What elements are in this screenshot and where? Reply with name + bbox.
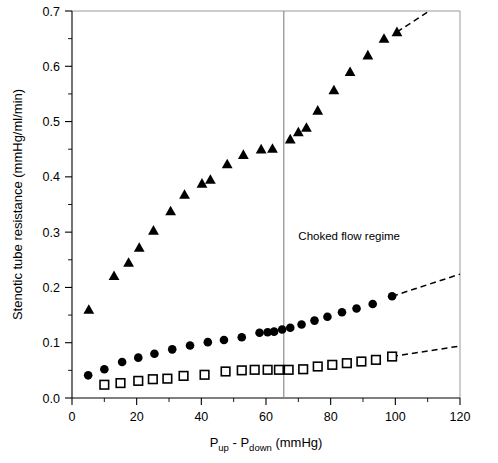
data-markers <box>83 27 402 389</box>
x-tick-label: 40 <box>194 410 208 424</box>
data-point-circle <box>237 333 246 342</box>
data-point-square <box>237 366 246 375</box>
y-tick-label: 0.3 <box>43 226 60 240</box>
chart-figure: 0.00.10.20.30.40.50.60.7020406080100120 … <box>0 0 498 463</box>
data-point-square <box>275 366 284 375</box>
data-point-circle <box>255 328 264 337</box>
data-point-circle <box>338 308 347 317</box>
data-point-triangle <box>123 257 134 267</box>
y-tick-label: 0.0 <box>43 392 60 406</box>
data-point-triangle <box>238 149 249 159</box>
x-tick-label: 20 <box>130 410 144 424</box>
data-point-circle <box>388 292 397 301</box>
y-axis-title: Stenotic tube resistance (mmHg/ml/min) <box>10 89 25 320</box>
data-point-circle <box>204 338 213 347</box>
data-point-square <box>100 380 109 389</box>
data-point-triangle <box>392 27 403 37</box>
trend-dashed-line <box>392 346 460 357</box>
data-point-square <box>163 374 172 383</box>
y-tick-label: 0.1 <box>43 336 60 350</box>
data-point-circle <box>270 327 279 336</box>
y-tick-label: 0.6 <box>43 60 60 74</box>
data-point-circle <box>168 345 177 354</box>
data-point-triangle <box>165 206 176 216</box>
data-point-triangle <box>148 225 159 235</box>
data-point-circle <box>310 316 319 325</box>
y-tick-label: 0.4 <box>43 170 60 184</box>
axis-tick-labels: 0.00.10.20.30.40.50.60.7020406080100120 <box>43 5 471 425</box>
data-point-triangle <box>362 50 373 60</box>
data-point-square <box>299 365 308 374</box>
data-point-circle <box>186 341 195 350</box>
data-point-circle <box>84 371 93 380</box>
x-tick-label: 100 <box>385 410 406 424</box>
data-point-square <box>116 379 125 388</box>
data-point-square <box>263 366 272 375</box>
data-point-triangle <box>379 33 390 43</box>
scatter-plot-svg: 0.00.10.20.30.40.50.60.7020406080100120 … <box>0 0 498 463</box>
data-point-triangle <box>345 66 356 76</box>
data-point-triangle <box>83 304 94 314</box>
data-point-triangle <box>109 270 120 280</box>
data-point-circle <box>286 323 295 332</box>
data-point-square <box>221 367 230 376</box>
data-point-circle <box>297 320 306 329</box>
data-series <box>100 352 396 389</box>
data-point-circle <box>150 349 159 358</box>
data-point-square <box>372 356 381 365</box>
data-point-circle <box>323 312 332 321</box>
axis-ticks <box>65 11 460 405</box>
data-point-triangle <box>179 189 190 199</box>
y-tick-label: 0.2 <box>43 281 60 295</box>
data-point-circle <box>368 300 377 309</box>
x-tick-label: 120 <box>450 410 471 424</box>
trend-dashed-lines <box>392 11 460 357</box>
trend-dashed-line <box>397 11 429 32</box>
data-point-square <box>200 370 209 379</box>
data-point-triangle <box>222 159 233 169</box>
data-point-square <box>284 366 293 375</box>
data-point-triangle <box>256 144 267 154</box>
plot-frame <box>72 11 460 398</box>
x-tick-label: 60 <box>259 410 273 424</box>
data-point-circle <box>100 365 109 374</box>
data-point-square <box>343 359 352 368</box>
annotations: Choked flow regime <box>298 230 400 242</box>
y-tick-label: 0.7 <box>43 5 60 19</box>
data-point-triangle <box>205 174 216 184</box>
x-tick-label: 0 <box>69 410 76 424</box>
data-point-circle <box>118 358 127 367</box>
data-point-square <box>388 352 397 361</box>
trend-dashed-line <box>392 274 460 296</box>
data-point-circle <box>352 304 361 313</box>
y-tick-label: 0.5 <box>43 115 60 129</box>
data-point-circle <box>220 336 229 345</box>
data-point-square <box>179 372 188 381</box>
data-point-triangle <box>267 143 278 153</box>
data-point-square <box>134 377 143 386</box>
data-point-triangle <box>134 242 145 252</box>
data-point-circle <box>134 353 143 362</box>
data-point-circle <box>278 325 287 334</box>
data-point-square <box>313 362 322 371</box>
x-axis-title: Pup - Pdown (mmHg) <box>210 435 323 453</box>
data-point-square <box>357 357 366 366</box>
data-point-triangle <box>301 122 312 132</box>
data-point-triangle <box>329 85 340 95</box>
data-point-square <box>250 366 259 375</box>
data-point-square <box>149 375 158 384</box>
choked-flow-label: Choked flow regime <box>298 230 400 242</box>
data-series <box>83 27 402 314</box>
data-point-square <box>328 361 337 370</box>
data-point-triangle <box>312 105 323 115</box>
x-tick-label: 80 <box>324 410 338 424</box>
